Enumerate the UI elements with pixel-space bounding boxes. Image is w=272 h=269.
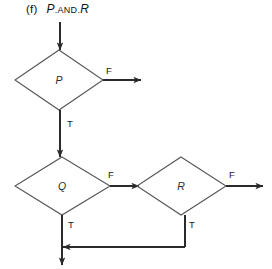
edge-label-r-false: F [229, 169, 235, 180]
decision-node-r-label: R [177, 180, 185, 192]
edge-label-q-false: F [108, 169, 114, 180]
edge-label-q-true: T [68, 219, 74, 230]
edge-label-p-false: F [106, 65, 112, 76]
decision-node-q-label: Q [58, 180, 66, 192]
flowchart-figure: (f)P.AND.R P F T Q F T [0, 0, 272, 269]
flowchart-canvas: P F T Q F T R F T [0, 0, 272, 269]
decision-node-p-label: P [55, 74, 62, 86]
edge-label-p-true: T [67, 118, 73, 129]
edge-label-r-true: T [189, 219, 195, 230]
